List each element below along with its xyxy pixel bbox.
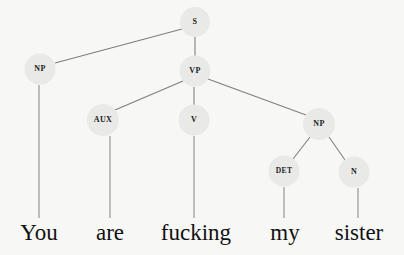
tree-node-s[interactable]: S <box>180 7 210 37</box>
node-label-np2: NP <box>313 119 324 128</box>
node-label-vp: VP <box>189 66 200 75</box>
node-label-np1: NP <box>34 64 45 73</box>
tree-node-det[interactable]: DET <box>269 156 300 187</box>
tree-node-aux[interactable]: AUX <box>87 104 119 136</box>
node-label-n: N <box>351 167 357 176</box>
node-label-det: DET <box>276 166 293 175</box>
terminal-word-term-are: are <box>96 220 124 245</box>
tree-node-np1[interactable]: NP <box>25 54 56 85</box>
terminal-word-term-you: You <box>20 220 58 245</box>
terminal-word-term-sister: sister <box>335 220 384 245</box>
terminal-word-term-my: my <box>270 220 300 245</box>
terminal-word-term-fucking: fucking <box>161 220 232 245</box>
node-label-s: S <box>193 17 198 26</box>
tree-node-np2[interactable]: NP <box>303 108 335 140</box>
tree-node-n[interactable]: N <box>339 157 370 188</box>
syntax-tree-diagram: SNPVPAUXVNPDETN Youarefuckingmysister <box>0 0 404 255</box>
tree-node-v[interactable]: V <box>179 105 210 136</box>
node-label-v: V <box>191 115 197 124</box>
tree-node-vp[interactable]: VP <box>180 56 211 87</box>
node-label-aux: AUX <box>94 115 113 124</box>
